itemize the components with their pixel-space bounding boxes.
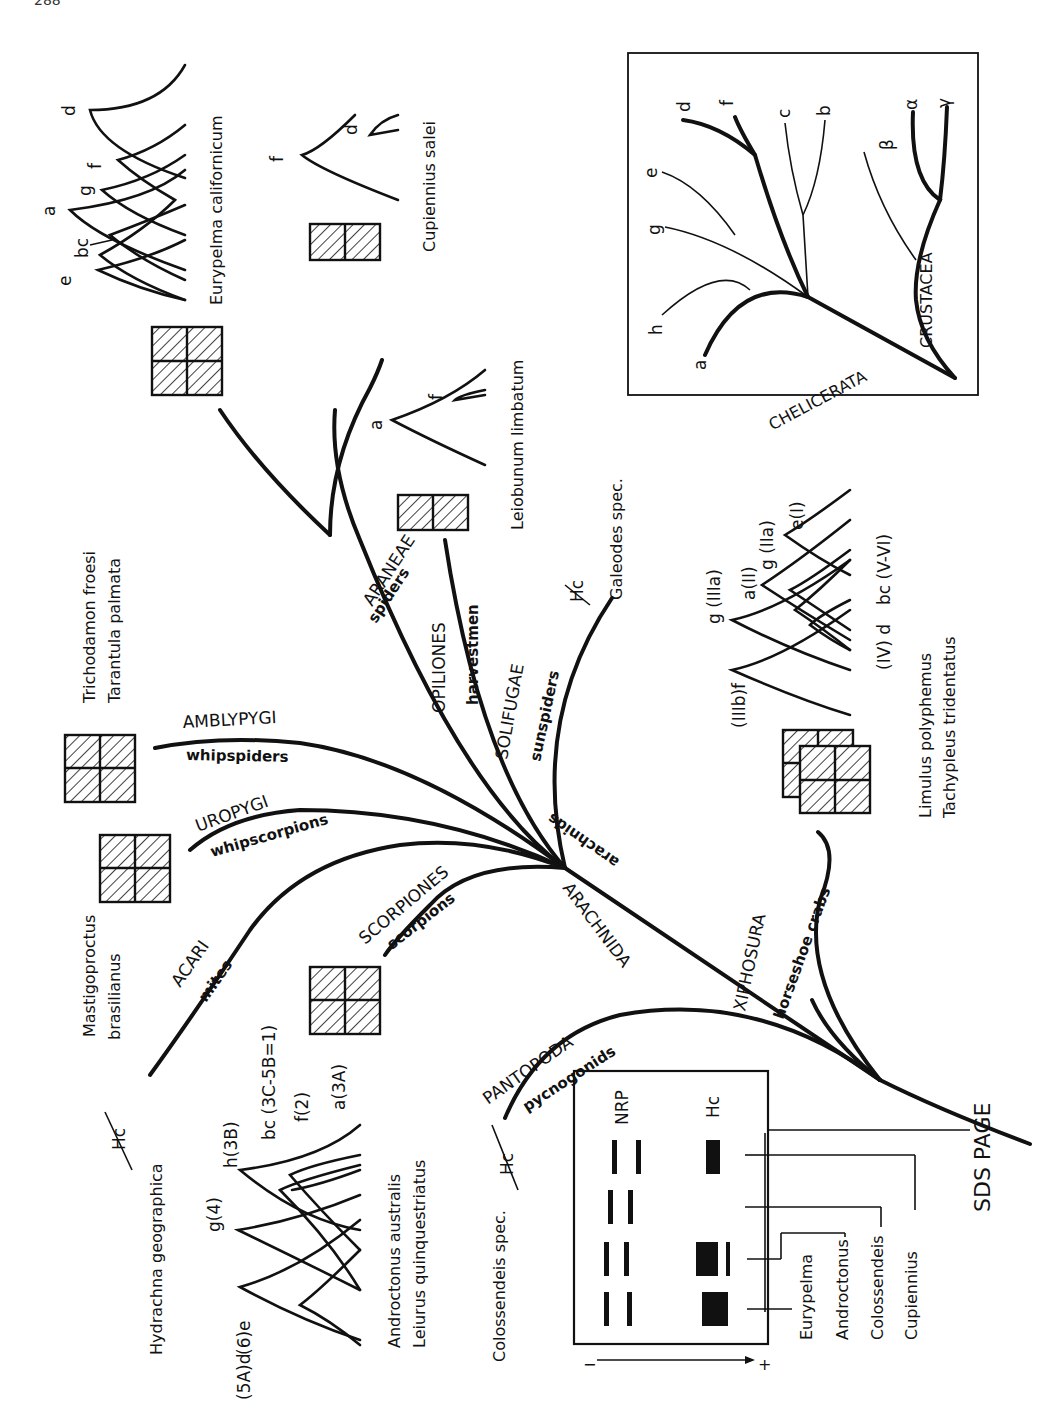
inset-leaf-g: g <box>644 224 664 235</box>
label-horseshoe-crabs: horseshoe crabs <box>770 885 834 1022</box>
species-mastigoproctus: Mastigoproctus <box>80 915 99 1037</box>
peak-f: f <box>85 162 105 169</box>
gel-plus-electrode: + <box>758 1355 771 1374</box>
peak-5a-d: (5A)d <box>234 1353 254 1400</box>
peak-iiib-f: (IIIb)f <box>729 682 749 728</box>
hc-absent-galeodes: Hc <box>567 580 587 602</box>
gel-minus-electrode: − <box>583 1355 596 1374</box>
gel-title: SDS PAGE <box>970 1103 995 1212</box>
inset-leaf-b: b <box>814 105 834 116</box>
peak-a3a: a(3A) <box>329 1064 349 1110</box>
root-branch <box>880 1080 1030 1144</box>
gel-lane-androctonus: Androctonus <box>833 1239 852 1340</box>
araneae-branch <box>334 410 565 868</box>
peak-f: f <box>426 393 446 400</box>
peak-g: g <box>75 185 95 196</box>
scorpiones-branch <box>385 867 565 955</box>
amblypygi-subunits <box>65 735 135 802</box>
inset-leaf-c: c <box>774 109 794 118</box>
gel-lane-eurypelma: Eurypelma <box>797 1254 816 1340</box>
label-solifugae: SOLIFUGAE <box>491 662 527 760</box>
colossendeis-absent-hc: Hc Colossendeis spec. <box>490 1125 518 1362</box>
inset-tree: CHELICERATA CRUSTACEA a h g e d f c b β … <box>628 53 978 434</box>
peak-bc: bc (3C-5B=1) <box>259 1025 279 1140</box>
species-leiurus: Leiurus quinquestriatus <box>410 1160 429 1348</box>
label-whipspiders: whipspiders <box>186 746 289 766</box>
peak-6e: (6)e <box>234 1320 254 1355</box>
peak-g-iia: g (IIa) <box>757 520 777 570</box>
species-cupiennius: Cupiennius salei <box>420 121 439 252</box>
inset-leaf-a: a <box>690 360 710 370</box>
gel-col-hc: Hc <box>703 1096 723 1118</box>
species-tachypleus: Tachypleus tridentatus <box>940 636 959 819</box>
peak-g4: g(4) <box>204 1197 224 1232</box>
species-trichodamon: Trichodamon froesi <box>80 551 99 704</box>
sds-page-gel: NRP Hc − + Eurypelma Androctonus Colosse… <box>574 1071 995 1374</box>
peak-a-ii: a(II) <box>739 566 759 600</box>
gel-lane-connectors <box>745 1130 970 1312</box>
species-androctonus: Androctonus australis <box>385 1174 404 1348</box>
araneae-mygalomorph-branch <box>220 410 330 535</box>
species-galeodes: Galeodes spec. <box>607 478 626 600</box>
eurypelma-profile: e bc a g f d Eurypelma californicum <box>39 65 226 305</box>
peak-bc: bc <box>72 238 92 258</box>
inset-leaf-f: f <box>717 99 737 106</box>
peak-g-iiia: g (IIIa) <box>704 569 724 624</box>
peak-e-i: e(I) <box>787 501 807 530</box>
label-harvestmen: harvestmen <box>464 604 482 705</box>
inset-leaf-d: d <box>674 101 694 112</box>
species-leiobunum: Leiobunum limbatum <box>508 360 527 530</box>
inset-leaf-beta: β <box>877 139 897 150</box>
limulus-subunits <box>783 730 870 813</box>
araneae-labidognath-branch <box>330 360 382 535</box>
species-hydrachna: Hydrachna geographica <box>147 1163 166 1355</box>
peak-d: d <box>341 124 361 135</box>
cupiennius-subunits <box>310 224 380 260</box>
hydrachna-absent-hc: Hc Hydrachna geographica <box>105 1112 166 1355</box>
peak-f2: f(2) <box>292 1092 312 1122</box>
gel-lane-cupiennius: Cupiennius <box>902 1251 921 1340</box>
scorpion-profile: (6)e (5A)d g(4) h(3B) bc (3C-5B=1) f(2) … <box>204 1025 429 1400</box>
peak-e: e <box>55 276 75 286</box>
inset-leaf-e: e <box>641 168 661 178</box>
leiobunum-subunits <box>398 495 468 530</box>
inset-chelicerata: CHELICERATA <box>766 367 870 434</box>
inset-leaf-gamma: γ <box>934 98 954 108</box>
species-eurypelma: Eurypelma californicum <box>207 115 226 305</box>
hc-absent-hydrachna: Hc <box>109 1128 129 1150</box>
gel-lane-colossendeis: Colossendeis <box>868 1235 887 1340</box>
label-opiliones: OPILIONES <box>429 622 449 713</box>
uropygi-subunits <box>100 835 170 902</box>
peak-iv-d: (IV) d <box>874 624 894 670</box>
label-amblypygi: AMBLYPYGI <box>182 707 277 732</box>
label-xiphosura: XIPHOSURA <box>729 911 769 1012</box>
peak-f: f <box>267 155 287 162</box>
peak-d: d <box>59 105 79 116</box>
label-arachnida: ARACHNIDA <box>559 878 636 971</box>
galeodes-absent-hc: Hc Galeodes spec. <box>565 478 626 605</box>
scorpion-subunits <box>310 967 380 1034</box>
acari-branch <box>150 843 565 1075</box>
pantopoda-branch <box>505 1010 880 1118</box>
gel-bands <box>604 1140 730 1326</box>
amblypygi-species: Trichodamon froesi Tarantula palmata <box>80 551 124 704</box>
inset-leaf-h: h <box>646 324 666 335</box>
species-limulus: Limulus polyphemus <box>916 653 935 818</box>
peak-bc-v-vi: bc (V-VI) <box>874 534 894 605</box>
inset-leaf-alpha: α <box>901 99 921 110</box>
peak-h3b: h(3B) <box>221 1121 241 1168</box>
uropygi-species: Mastigoproctus brasilianus <box>80 915 124 1040</box>
peak-a: a <box>39 206 59 216</box>
species-brasilianus: brasilianus <box>105 953 124 1040</box>
peak-a: a <box>366 420 386 430</box>
phylogeny-figure: ARANEAE spiders OPILIONES harvestmen SOL… <box>0 0 1049 1424</box>
inset-crustacea: CRUSTACEA <box>917 252 936 348</box>
gel-col-nrp: NRP <box>612 1090 632 1125</box>
species-tarantula: Tarantula palmata <box>105 558 124 704</box>
eurypelma-subunits <box>152 327 222 395</box>
species-colossendeis: Colossendeis spec. <box>490 1210 509 1362</box>
